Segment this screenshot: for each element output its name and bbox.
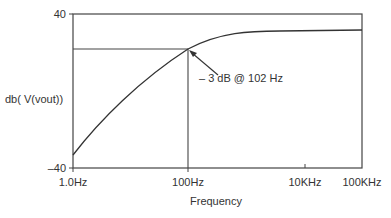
x-tick-label-100khz: 100KHz bbox=[342, 176, 381, 188]
y-axis-label: db( V(vout)) bbox=[5, 93, 63, 105]
bode-plot: 40 –40 db( V(vout)) 1.0Hz 100Hz 10KHz 10… bbox=[0, 0, 391, 218]
y-tick-label-bottom: –40 bbox=[48, 162, 66, 174]
x-axis-label: Frequency bbox=[190, 195, 242, 207]
y-tick-label-top: 40 bbox=[54, 8, 66, 20]
x-tick-label-100hz: 100Hz bbox=[172, 176, 204, 188]
cutoff-annotation: – 3 dB @ 102 Hz bbox=[199, 72, 283, 84]
x-tick-label-1hz: 1.0Hz bbox=[59, 176, 88, 188]
x-tick-label-10khz: 10KHz bbox=[288, 176, 321, 188]
